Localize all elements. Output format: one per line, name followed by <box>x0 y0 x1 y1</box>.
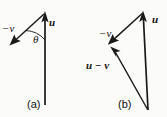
panel-b-label-neg-v: −v <box>99 28 111 39</box>
panel-b-vector-u-shaft <box>143 18 148 110</box>
panel-b-label-u: u <box>152 14 158 25</box>
panel-a-label-neg-v: −v <box>2 23 14 34</box>
panel-b-vector-negv-shaft <box>114 14 143 40</box>
panel-b-label-u-minus-v: u − v <box>86 60 109 71</box>
panel-a-caption: (a) <box>27 99 40 110</box>
panel-a-group <box>10 11 49 105</box>
panel-b-group <box>108 11 148 111</box>
panel-a-label-u: u <box>49 17 55 28</box>
vector-diagram-canvas <box>0 0 167 117</box>
panel-a-vector-negv-shaft <box>15 14 44 41</box>
panel-b-vector-umv-arrowhead <box>110 47 120 58</box>
panel-b-caption: (b) <box>118 99 131 110</box>
panel-a-label-theta: θ <box>33 34 38 45</box>
vector-diagram-figure: u −v θ (a) u −v u − v (b) <box>0 0 167 117</box>
